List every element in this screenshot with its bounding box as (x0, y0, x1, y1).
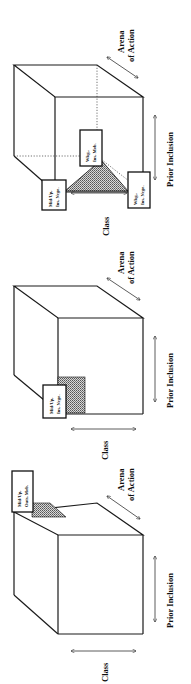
shaded-region (32, 503, 66, 517)
label-box: Mid/Up, Outs, Mob. (12, 471, 33, 512)
arena-label: of Action (126, 468, 136, 501)
svg-text:Mid/Up,: Mid/Up, (48, 191, 53, 207)
arena-label: Arena (116, 468, 126, 491)
svg-text:Wkg.,: Wkg., (133, 193, 138, 205)
svg-text:Mid/Up,: Mid/Up, (49, 398, 54, 414)
arena-label: Arena (116, 251, 126, 274)
panel-left: Mid/Up, Outs, Mob. Arena of Action Prior… (12, 468, 175, 682)
class-label: Class (100, 440, 110, 460)
arena-label: of Action (126, 251, 136, 284)
svg-text:Outs, Mob.: Outs, Mob. (24, 485, 29, 507)
svg-text:Ins, Mob.: Ins, Mob. (92, 143, 97, 162)
class-label: Class (101, 216, 111, 236)
arena-label: Arena (116, 30, 126, 53)
label-box: Mid/Up, Ins, Nego. (43, 385, 66, 418)
label-box: Wkg., Ins, Nego. (128, 172, 150, 208)
label-box: Wkg., Ins, Mob. (80, 130, 102, 166)
prior-inclusion-label: Prior Inclusion (165, 132, 175, 187)
prior-inclusion-label: Prior Inclusion (165, 573, 175, 628)
label-box: Mid/Up, Ins, Nego. (42, 180, 66, 210)
svg-text:Ins, Nego.: Ins, Nego. (56, 394, 61, 414)
panel-right: Mid/Up, Ins, Nego. Wkg., Ins, Mob. Wkg.,… (14, 29, 175, 236)
arena-label: of Action (126, 29, 136, 62)
cube-right (14, 65, 143, 192)
class-label: Class (100, 662, 110, 682)
prior-inclusion-label: Prior Inclusion (165, 353, 175, 408)
svg-text:Ins, Nego.: Ins, Nego. (140, 185, 145, 205)
cube-left (14, 503, 143, 634)
svg-text:Wkg.,: Wkg., (85, 150, 90, 162)
svg-text:Mid/Up,: Mid/Up, (17, 491, 22, 507)
svg-text:Ins, Nego.: Ins, Nego. (55, 187, 60, 207)
panel-middle: Mid/Up, Ins, Nego. Arena of Action Prior… (14, 251, 175, 460)
figure-canvas: Mid/Up, Ins, Nego. Wkg., Ins, Mob. Wkg.,… (0, 0, 191, 684)
